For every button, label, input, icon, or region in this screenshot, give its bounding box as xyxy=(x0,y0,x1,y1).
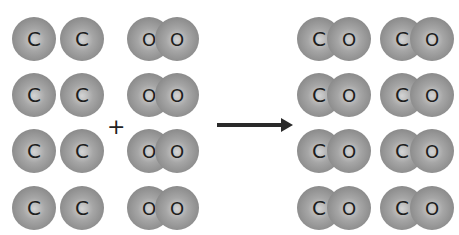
carbon-atom: C xyxy=(60,17,104,61)
atom-label: O xyxy=(170,141,184,162)
oxygen-atom: O xyxy=(410,73,454,117)
oxygen-atom: O xyxy=(155,186,199,230)
atom-label: C xyxy=(27,196,41,220)
atom-label: O xyxy=(170,29,184,50)
atom-label: O xyxy=(142,141,156,162)
atom-label: C xyxy=(312,196,326,220)
atom-label: O xyxy=(342,141,356,162)
plus-sign: + xyxy=(107,116,125,138)
atom-label: C xyxy=(75,139,89,163)
carbon-atom: C xyxy=(60,186,104,230)
atom-label: C xyxy=(312,139,326,163)
atom-label: O xyxy=(342,85,356,106)
atom-label: O xyxy=(142,198,156,219)
oxygen-atom: O xyxy=(327,129,371,173)
atom-label: O xyxy=(342,198,356,219)
atom-label: O xyxy=(142,29,156,50)
oxygen-atom: O xyxy=(410,129,454,173)
oxygen-atom: O xyxy=(155,129,199,173)
atom-label: C xyxy=(395,139,409,163)
atom-label: C xyxy=(395,83,409,107)
carbon-atom: C xyxy=(60,129,104,173)
atom-label: C xyxy=(75,196,89,220)
atom-label: C xyxy=(75,27,89,51)
atom-label: C xyxy=(27,139,41,163)
oxygen-atom: O xyxy=(327,73,371,117)
oxygen-atom: O xyxy=(410,186,454,230)
atom-label: O xyxy=(425,141,439,162)
arrow-shaft xyxy=(217,123,283,127)
atom-label: C xyxy=(395,27,409,51)
atom-label: O xyxy=(425,198,439,219)
atom-label: C xyxy=(75,83,89,107)
oxygen-atom: O xyxy=(155,17,199,61)
oxygen-atom: O xyxy=(327,17,371,61)
carbon-atom: C xyxy=(12,73,56,117)
atom-label: O xyxy=(342,29,356,50)
oxygen-atom: O xyxy=(410,17,454,61)
atom-label: O xyxy=(170,198,184,219)
atom-label: O xyxy=(170,85,184,106)
carbon-atom: C xyxy=(12,129,56,173)
atom-label: C xyxy=(395,196,409,220)
atom-label: C xyxy=(312,83,326,107)
atom-label: C xyxy=(312,27,326,51)
arrow-head xyxy=(281,118,293,132)
atom-label: C xyxy=(27,83,41,107)
atom-label: O xyxy=(425,29,439,50)
atom-label: O xyxy=(425,85,439,106)
carbon-atom: C xyxy=(60,73,104,117)
atom-label: O xyxy=(142,85,156,106)
oxygen-atom: O xyxy=(155,73,199,117)
carbon-atom: C xyxy=(12,186,56,230)
oxygen-atom: O xyxy=(327,186,371,230)
carbon-atom: C xyxy=(12,17,56,61)
atom-label: C xyxy=(27,27,41,51)
